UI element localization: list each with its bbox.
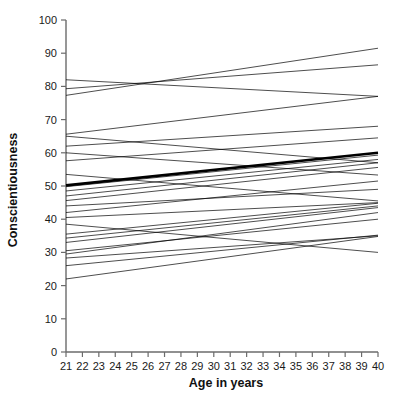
y-tick-label: 90	[45, 47, 57, 59]
x-tick-label: 38	[339, 360, 351, 372]
series-line-subject-21	[66, 235, 378, 266]
x-tick-label: 30	[208, 360, 220, 372]
x-tick-label: 35	[290, 360, 302, 372]
x-tick-label: 39	[355, 360, 367, 372]
x-tick-label: 22	[76, 360, 88, 372]
conscientiousness-age-chart: 0102030405060708090100 21222324252627282…	[0, 0, 393, 403]
series-line-subject-02	[66, 65, 378, 89]
x-tick-label: 33	[257, 360, 269, 372]
x-axis-title: Age in years	[189, 376, 263, 390]
x-tick-label: 27	[158, 360, 170, 372]
x-tick-label: 21	[60, 360, 72, 372]
y-tick-label: 30	[45, 246, 57, 258]
y-tick-label: 40	[45, 213, 57, 225]
series-line-subject-20	[66, 236, 378, 258]
x-tick-label: 37	[323, 360, 335, 372]
x-tick-label: 36	[306, 360, 318, 372]
x-tick-label: 25	[126, 360, 138, 372]
series-line-subject-22	[66, 236, 378, 278]
series-line-subject-14	[66, 203, 378, 218]
x-tick-label: 28	[175, 360, 187, 372]
series-line-subject-12	[66, 167, 378, 200]
y-tick-label: 20	[45, 280, 57, 292]
x-tick-label: 34	[273, 360, 285, 372]
x-tick-label: 40	[372, 360, 384, 372]
y-axis: 0102030405060708090100	[39, 14, 66, 358]
x-axis: 2122232425262728293031323334353637383940	[60, 352, 384, 372]
series-line-subject-18	[66, 219, 378, 251]
x-tick-label: 24	[109, 360, 121, 372]
series-line-subject-06	[66, 126, 378, 146]
series-line-subject-09	[66, 155, 378, 187]
series-line-subject-17	[66, 208, 378, 243]
y-tick-label: 60	[45, 147, 57, 159]
y-tick-label: 80	[45, 80, 57, 92]
x-tick-label: 23	[93, 360, 105, 372]
y-tick-label: 100	[39, 14, 57, 26]
x-tick-label: 31	[224, 360, 236, 372]
chart-plot-area: 0102030405060708090100 21222324252627282…	[0, 0, 393, 403]
y-tick-label: 70	[45, 114, 57, 126]
y-tick-label: 0	[51, 346, 57, 358]
x-tick-label: 26	[142, 360, 154, 372]
y-axis-title: Conscientiousness	[6, 133, 20, 248]
series-line-subject-04	[66, 96, 378, 134]
y-tick-label: 10	[45, 313, 57, 325]
series-line-subject-13	[66, 189, 378, 206]
x-tick-label: 32	[241, 360, 253, 372]
y-tick-label: 50	[45, 180, 57, 192]
series-lines	[66, 48, 378, 279]
x-tick-label: 29	[191, 360, 203, 372]
